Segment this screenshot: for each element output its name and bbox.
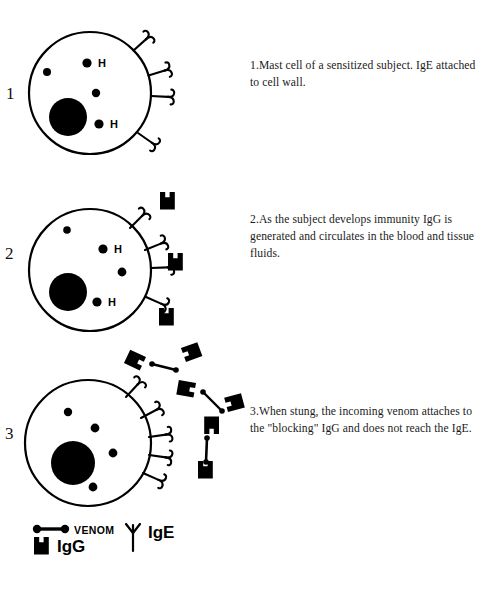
panel-2-caption: 2.As the subject develops immunity IgG i…: [250, 212, 482, 262]
mast-cell-nucleus: [49, 273, 87, 311]
venom-igg-complex: [124, 342, 202, 373]
panel-1-illustration: [29, 30, 174, 154]
granule: [94, 119, 103, 128]
mast-cell-membrane: [29, 209, 151, 331]
granule: [98, 244, 107, 253]
legend-venom-label: VENOM: [74, 524, 115, 536]
granule: [43, 68, 51, 76]
panel-number-2: 2: [5, 244, 14, 264]
diagram-root: 1 2 3 H H H H 1.Mast cell of a sensitize…: [0, 0, 486, 593]
venom-molecule: [200, 389, 225, 414]
granule: [64, 408, 72, 416]
legend-ige-label: IgE: [148, 523, 174, 543]
mast-cell-nucleus: [49, 98, 87, 136]
granule: [118, 268, 127, 277]
legend-igg-label: IgG: [57, 537, 85, 557]
granule-label-h: H: [110, 118, 118, 130]
granule: [92, 89, 100, 97]
panel-3-caption: 3.When stung, the incoming venom attache…: [250, 404, 482, 438]
venom-igg-complex: [176, 380, 245, 414]
legend-ige-icon: [126, 524, 140, 551]
panel-number-1: 1: [6, 84, 15, 104]
venom-molecule: [149, 361, 179, 373]
igg-molecule: [160, 192, 175, 209]
granule: [82, 58, 91, 67]
granule-label-h: H: [108, 296, 116, 308]
granule: [109, 449, 118, 458]
granule: [91, 424, 100, 433]
granule-label-h: H: [98, 57, 106, 69]
panel-number-3: 3: [5, 424, 14, 444]
venom-igg-complex: [198, 417, 219, 479]
mast-cell-membrane: [25, 380, 151, 506]
panel-1-caption: 1.Mast cell of a sensitized subject. IgE…: [250, 58, 480, 92]
panel-2-illustration: [29, 192, 183, 331]
panel-3-illustration: [25, 342, 245, 506]
granule: [92, 297, 101, 306]
venom-molecule: [203, 435, 210, 465]
legend-venom-icon: [33, 525, 69, 533]
granule: [89, 483, 98, 492]
granule: [63, 226, 71, 234]
granule-label-h: H: [114, 243, 122, 255]
igg-molecule: [168, 253, 183, 270]
mast-cell-nucleus: [51, 441, 95, 485]
legend-igg-icon: [34, 537, 49, 554]
igg-molecule: [159, 308, 174, 325]
